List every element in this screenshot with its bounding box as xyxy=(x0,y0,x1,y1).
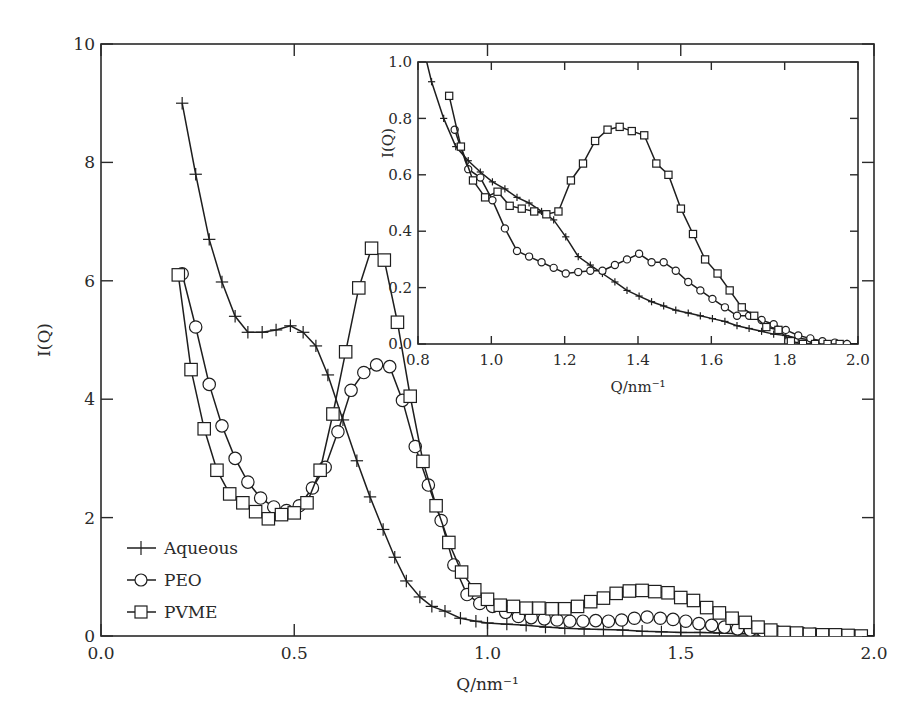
x-tick-label: 1.6 xyxy=(699,351,723,369)
y-tick-label: 2 xyxy=(84,508,95,528)
square-marker-icon xyxy=(249,505,261,517)
square-marker-icon xyxy=(653,160,660,167)
circle-marker-icon xyxy=(575,268,582,275)
square-marker-icon xyxy=(262,513,274,525)
square-marker-icon xyxy=(211,464,223,476)
square-marker-icon xyxy=(665,171,672,178)
square-marker-icon xyxy=(649,585,661,597)
square-marker-icon xyxy=(592,137,599,144)
square-marker-icon xyxy=(494,599,506,611)
square-marker-icon xyxy=(443,536,455,548)
square-marker-icon xyxy=(555,208,562,215)
square-marker-icon xyxy=(446,92,453,99)
square-marker-icon xyxy=(417,455,429,467)
x-tick-label: 1.0 xyxy=(479,351,503,369)
y-tick-label: 0 xyxy=(84,626,95,646)
legend-item-aqueous: Aqueous xyxy=(127,538,238,558)
square-marker-icon xyxy=(726,612,738,624)
square-marker-icon xyxy=(763,323,770,330)
circle-marker-icon xyxy=(782,326,789,333)
circle-marker-icon xyxy=(501,225,508,232)
square-marker-icon xyxy=(677,205,684,212)
square-marker-icon xyxy=(816,629,828,641)
square-marker-icon xyxy=(628,127,635,134)
square-marker-icon xyxy=(739,616,751,628)
legend-label: PVME xyxy=(164,602,218,622)
circle-marker-icon xyxy=(667,613,679,625)
square-marker-icon xyxy=(787,338,794,345)
circle-marker-icon xyxy=(229,452,241,464)
y-tick-label: 0.6 xyxy=(388,166,412,184)
y-axis-label: I(Q) xyxy=(34,323,54,357)
square-marker-icon xyxy=(713,607,725,619)
circle-marker-icon xyxy=(680,615,692,627)
x-tick-label: 0.0 xyxy=(87,643,114,663)
square-marker-icon xyxy=(751,312,758,319)
circle-marker-icon xyxy=(513,247,520,254)
square-marker-icon xyxy=(829,629,841,641)
square-marker-icon xyxy=(752,621,764,633)
circle-marker-icon xyxy=(795,332,802,339)
circle-marker-icon xyxy=(189,321,201,333)
square-marker-icon xyxy=(738,304,745,311)
square-marker-icon xyxy=(604,126,611,133)
y-tick-label: 6 xyxy=(84,271,95,291)
circle-marker-icon xyxy=(660,259,667,266)
square-marker-icon xyxy=(518,205,525,212)
square-marker-icon xyxy=(791,627,803,639)
circle-marker-icon xyxy=(562,270,569,277)
circle-marker-icon xyxy=(705,619,717,631)
x-tick-label: 2.0 xyxy=(860,643,887,663)
circle-marker-icon xyxy=(254,492,266,504)
square-marker-icon xyxy=(765,624,777,636)
square-marker-icon xyxy=(700,601,712,613)
square-marker-icon xyxy=(135,606,147,618)
circle-marker-icon xyxy=(577,615,589,627)
circle-marker-icon xyxy=(332,426,344,438)
circle-marker-icon xyxy=(358,366,370,378)
y-axis-label: I(Q) xyxy=(379,128,397,158)
square-marker-icon xyxy=(469,584,481,596)
square-marker-icon xyxy=(636,584,648,596)
x-axis-label: Q/nm⁻¹ xyxy=(456,674,519,694)
square-marker-icon xyxy=(457,143,464,150)
circle-marker-icon xyxy=(615,614,627,626)
square-marker-icon xyxy=(567,177,574,184)
circle-marker-icon xyxy=(477,174,484,181)
circle-marker-icon xyxy=(628,612,640,624)
x-tick-label: 0.5 xyxy=(281,643,308,663)
square-marker-icon xyxy=(224,488,236,500)
square-marker-icon xyxy=(520,602,532,614)
circle-marker-icon xyxy=(526,253,533,260)
circle-marker-icon xyxy=(551,614,563,626)
circle-marker-icon xyxy=(564,615,576,627)
circle-marker-icon xyxy=(587,267,594,274)
square-marker-icon xyxy=(314,464,326,476)
square-marker-icon xyxy=(855,630,867,642)
circle-marker-icon xyxy=(654,612,666,624)
square-marker-icon xyxy=(455,566,467,578)
square-marker-icon xyxy=(506,202,513,209)
circle-marker-icon xyxy=(590,614,602,626)
square-marker-icon xyxy=(799,340,806,347)
circle-marker-icon xyxy=(697,287,704,294)
square-marker-icon xyxy=(531,208,538,215)
y-tick-label: 0.8 xyxy=(388,110,412,128)
square-marker-icon xyxy=(610,587,622,599)
square-marker-icon xyxy=(353,282,365,294)
circle-marker-icon xyxy=(370,359,382,371)
square-marker-icon xyxy=(469,177,476,184)
circle-marker-icon xyxy=(345,384,357,396)
square-marker-icon xyxy=(339,346,351,358)
x-axis-label: Q/nm⁻¹ xyxy=(610,378,665,396)
legend-label: PEO xyxy=(164,570,202,590)
x-tick-label: 0.8 xyxy=(406,351,430,369)
square-marker-icon xyxy=(494,188,501,195)
x-tick-label: 1.8 xyxy=(773,351,797,369)
legend: Aqueous PEO PVME xyxy=(127,538,238,622)
circle-marker-icon xyxy=(623,256,630,263)
circle-marker-icon xyxy=(611,261,618,268)
square-marker-icon xyxy=(172,269,184,281)
circle-marker-icon xyxy=(489,197,496,204)
square-marker-icon xyxy=(288,507,300,519)
